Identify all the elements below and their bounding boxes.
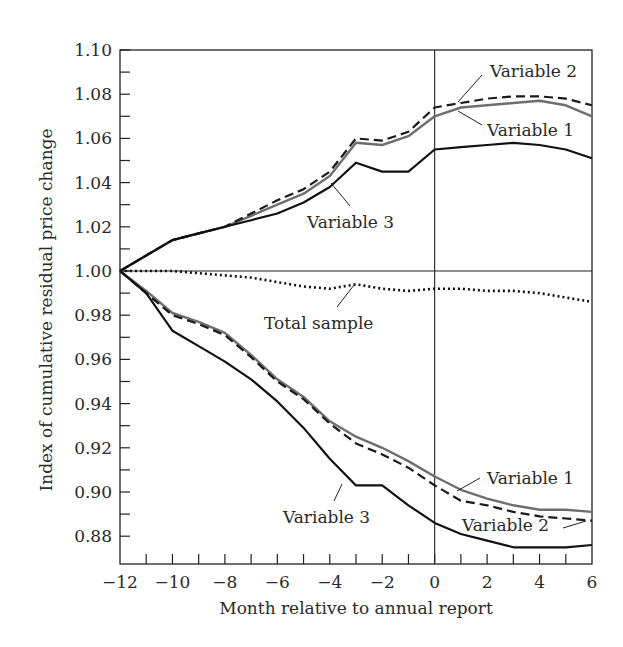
- y-tick-label: 1.08: [74, 84, 112, 104]
- x-tick-label: −12: [102, 572, 138, 592]
- annotation-leader-line: [458, 75, 482, 102]
- x-tick-label: −2: [370, 572, 395, 592]
- y-axis: 0.880.900.920.940.960.981.001.021.041.06…: [74, 40, 130, 546]
- y-axis-title: Index of cumulative residual price chang…: [36, 128, 56, 491]
- x-tick-label: 4: [534, 572, 545, 592]
- y-tick-label: 0.96: [74, 349, 112, 369]
- x-tick-label: −8: [212, 572, 237, 592]
- y-tick-label: 1.00: [74, 261, 112, 281]
- x-tick-label: −10: [154, 572, 190, 592]
- annotation-label: Variable 3: [282, 507, 370, 527]
- annotation-label: Total sample: [264, 313, 373, 333]
- annotation-leader-line: [563, 521, 586, 528]
- cumulative-residual-chart: 0.880.900.920.940.960.981.001.021.041.06…: [0, 0, 623, 647]
- x-axis: −12−10−8−6−4−20246: [102, 554, 597, 592]
- y-tick-label: 1.04: [74, 173, 112, 193]
- annotation-label: Variable 1: [486, 120, 574, 140]
- annotation-label: Variable 3: [306, 212, 394, 232]
- x-tick-label: 2: [482, 572, 493, 592]
- annotation-label: Variable 2: [461, 515, 549, 535]
- y-tick-label: 0.88: [74, 526, 112, 546]
- x-tick-label: 0: [429, 572, 440, 592]
- y-tick-label: 0.94: [74, 394, 112, 414]
- y-tick-label: 0.90: [74, 482, 112, 502]
- y-tick-label: 0.98: [74, 305, 112, 325]
- annotations: Variable 2Variable 1Variable 3Total samp…: [264, 61, 586, 535]
- annotation-label: Variable 1: [486, 468, 574, 488]
- series-total-sample: [120, 271, 592, 302]
- x-tick-label: 6: [587, 572, 598, 592]
- annotation-leader-line: [457, 478, 480, 491]
- annotation-leader-line: [334, 484, 342, 501]
- annotation-label: Variable 2: [489, 61, 577, 81]
- y-tick-label: 1.10: [74, 40, 112, 60]
- y-tick-label: 1.02: [74, 217, 112, 237]
- series-variable-3-good-news: [120, 143, 592, 271]
- annotation-leader-line: [331, 183, 350, 206]
- x-tick-label: −4: [317, 572, 342, 592]
- x-tick-label: −6: [265, 572, 290, 592]
- y-tick-label: 0.92: [74, 438, 112, 458]
- x-axis-title: Month relative to annual report: [219, 598, 493, 618]
- annotation-leader-line: [458, 111, 482, 125]
- y-tick-label: 1.06: [74, 128, 112, 148]
